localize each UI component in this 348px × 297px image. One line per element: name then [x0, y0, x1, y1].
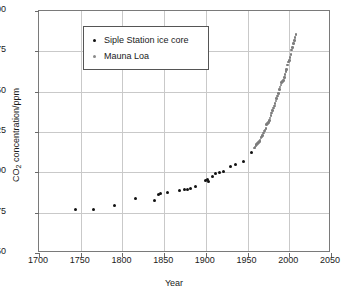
data-point — [285, 68, 288, 71]
legend-label-siple: Siple Station ice core — [104, 36, 189, 45]
data-point — [295, 33, 298, 36]
data-point — [229, 165, 232, 168]
x-axis-tick — [164, 253, 165, 257]
data-point — [211, 175, 214, 178]
x-axis-tick — [331, 253, 332, 257]
y-axis-tick — [35, 132, 39, 133]
y-axis-tick — [35, 51, 39, 52]
data-point — [234, 163, 237, 166]
data-point — [278, 88, 281, 91]
y-axis-tick — [35, 92, 39, 93]
data-point — [265, 127, 268, 130]
plot-area: Siple Station ice core Mauna Loa — [38, 10, 330, 252]
data-point — [275, 97, 278, 100]
data-point — [271, 109, 274, 112]
data-point — [92, 208, 95, 211]
data-point — [250, 151, 253, 154]
data-point — [74, 208, 77, 211]
y-axis-tick-label: 300 — [0, 166, 6, 175]
chart-legend: Siple Station ice core Mauna Loa — [83, 26, 209, 70]
co2-concentration-chart: 250275300325350375400 170017501800185019… — [0, 0, 348, 297]
y-axis-tick-label: 325 — [0, 126, 6, 135]
x-axis-tick-label: 1700 — [18, 256, 58, 265]
gridline-horizontal — [39, 132, 329, 133]
gridline-vertical — [81, 11, 82, 251]
data-point — [284, 73, 287, 76]
data-point — [242, 160, 245, 163]
data-point — [189, 187, 192, 190]
data-point — [288, 59, 291, 62]
x-axis-title: Year — [0, 278, 348, 288]
data-point — [274, 102, 277, 105]
x-axis-tick — [289, 253, 290, 257]
x-axis-tick — [39, 253, 40, 257]
y-axis-title-suffix: concentration/ppm — [11, 88, 21, 165]
y-axis-tick-label: 250 — [0, 247, 6, 256]
data-point — [282, 79, 285, 82]
x-axis-tick-label: 2000 — [268, 256, 308, 265]
y-axis-tick — [35, 253, 39, 254]
data-point — [283, 76, 286, 79]
gridline-horizontal — [39, 213, 329, 214]
x-axis-tick-label: 1800 — [101, 256, 141, 265]
data-point — [194, 185, 197, 188]
data-point — [207, 180, 210, 183]
x-axis-tick-label: 1750 — [60, 256, 100, 265]
y-axis-tick-label: 275 — [0, 207, 6, 216]
data-point — [261, 134, 264, 137]
gridline-vertical — [289, 11, 290, 251]
data-point — [270, 114, 273, 117]
x-axis-tick-label: 1950 — [227, 256, 267, 265]
legend-item-mauna-loa: Mauna Loa — [84, 48, 208, 64]
data-point — [289, 56, 292, 59]
data-point — [268, 119, 271, 122]
data-point — [286, 64, 289, 67]
x-axis-tick-label: 2050 — [310, 256, 348, 265]
legend-item-siple-station-ice-core: Siple Station ice core — [84, 32, 208, 48]
data-point — [153, 199, 156, 202]
data-point — [113, 204, 116, 207]
legend-marker-icon-siple — [93, 39, 96, 42]
data-point — [294, 36, 297, 39]
y-axis-tick — [35, 11, 39, 12]
y-axis-title: CO2 concentration/ppm — [11, 55, 21, 215]
data-point — [290, 53, 293, 56]
y-axis-tick-label: 350 — [0, 86, 6, 95]
y-axis-title-prefix: CO — [11, 168, 21, 182]
data-point — [292, 42, 295, 45]
gridline-horizontal — [39, 92, 329, 93]
x-axis-tick — [206, 253, 207, 257]
gridline-horizontal — [39, 172, 329, 173]
data-point — [293, 39, 296, 42]
data-point — [178, 189, 181, 192]
y-axis-tick — [35, 172, 39, 173]
data-point — [218, 171, 221, 174]
x-axis-tick — [122, 253, 123, 257]
y-axis-tick-label: 375 — [0, 45, 6, 54]
x-axis-tick-label: 1900 — [185, 256, 225, 265]
data-point — [214, 172, 217, 175]
y-axis-title-subscript: 2 — [15, 165, 22, 169]
data-point — [277, 92, 280, 95]
y-axis-tick-label: 400 — [0, 5, 6, 14]
legend-marker-icon-mauna — [93, 55, 96, 58]
y-axis-tick — [35, 213, 39, 214]
x-axis-tick-label: 1850 — [143, 256, 183, 265]
data-point — [269, 117, 272, 120]
data-point — [291, 46, 294, 49]
gridline-vertical — [248, 11, 249, 251]
x-axis-tick — [81, 253, 82, 257]
data-point — [166, 191, 169, 194]
data-point — [259, 139, 262, 142]
data-point — [159, 192, 162, 195]
data-point — [222, 170, 225, 173]
x-axis-tick — [248, 253, 249, 257]
legend-label-mauna: Mauna Loa — [104, 52, 149, 61]
data-point — [275, 100, 278, 103]
data-point — [134, 197, 137, 200]
